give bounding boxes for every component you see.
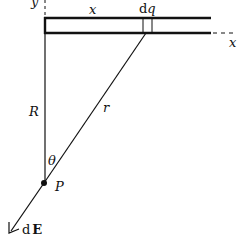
field-diagram: y x dq x R r θ P dE <box>0 0 244 237</box>
dE-label: dE <box>22 222 42 237</box>
x-distance-label: x <box>89 2 97 17</box>
y-axis-label: y <box>30 0 39 9</box>
theta-label: θ <box>48 153 56 168</box>
r-label: r <box>103 100 110 115</box>
R-label: R <box>28 104 39 119</box>
x-axis-label: x <box>229 35 237 50</box>
dq-label: dq <box>139 1 156 16</box>
r-line <box>44 33 146 183</box>
P-label: P <box>54 179 64 194</box>
